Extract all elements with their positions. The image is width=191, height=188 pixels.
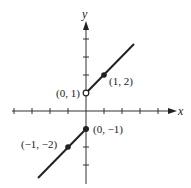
- point-m1-m2: [65, 144, 71, 150]
- y-axis-arrow-icon: [83, 21, 89, 30]
- label-1-2: (1, 2): [109, 75, 133, 88]
- piecewise-graph: x y (0, 1) (1, 2) (0, −1) (−1, −2): [0, 0, 191, 188]
- label-m1-m2: (−1, −2): [21, 138, 58, 151]
- label-0-1: (0, 1): [56, 87, 80, 100]
- x-axis-label: x: [177, 104, 184, 118]
- x-axis-arrow-icon: [168, 108, 177, 114]
- open-point-0-1: [83, 90, 89, 96]
- label-0-m1: (0, −1): [93, 123, 123, 136]
- y-axis-label: y: [81, 7, 88, 21]
- point-1-2: [101, 72, 107, 78]
- point-0-m1: [83, 126, 89, 132]
- lower-line-segment: [38, 129, 86, 178]
